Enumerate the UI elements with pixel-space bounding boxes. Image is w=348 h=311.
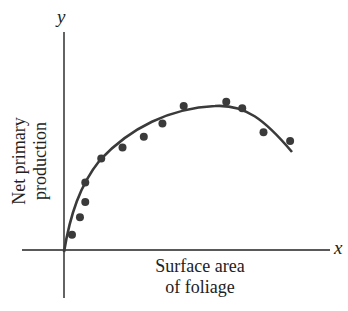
data-point bbox=[158, 120, 166, 128]
data-point bbox=[140, 133, 148, 141]
data-point bbox=[97, 154, 105, 162]
data-point bbox=[68, 231, 76, 239]
data-point bbox=[238, 104, 246, 112]
x-axis-label: Surface area of foliage bbox=[120, 256, 280, 298]
y-axis-label: Net primary production bbox=[9, 91, 51, 231]
data-point bbox=[119, 144, 127, 152]
y-axis-label-line2: production bbox=[30, 91, 51, 231]
data-point bbox=[222, 98, 230, 106]
x-axis-label-line2: of foliage bbox=[120, 277, 280, 298]
data-point bbox=[76, 213, 84, 221]
y-axis-variable: y bbox=[57, 6, 65, 28]
y-axis-label-line1: Net primary bbox=[9, 91, 30, 231]
data-point bbox=[81, 198, 89, 206]
x-axis-variable: x bbox=[334, 237, 342, 259]
fitted-curve bbox=[64, 106, 292, 252]
x-axis-label-line1: Surface area bbox=[120, 256, 280, 277]
data-point bbox=[260, 128, 268, 136]
data-point bbox=[286, 137, 294, 145]
data-point bbox=[81, 178, 89, 186]
data-point bbox=[180, 102, 188, 110]
